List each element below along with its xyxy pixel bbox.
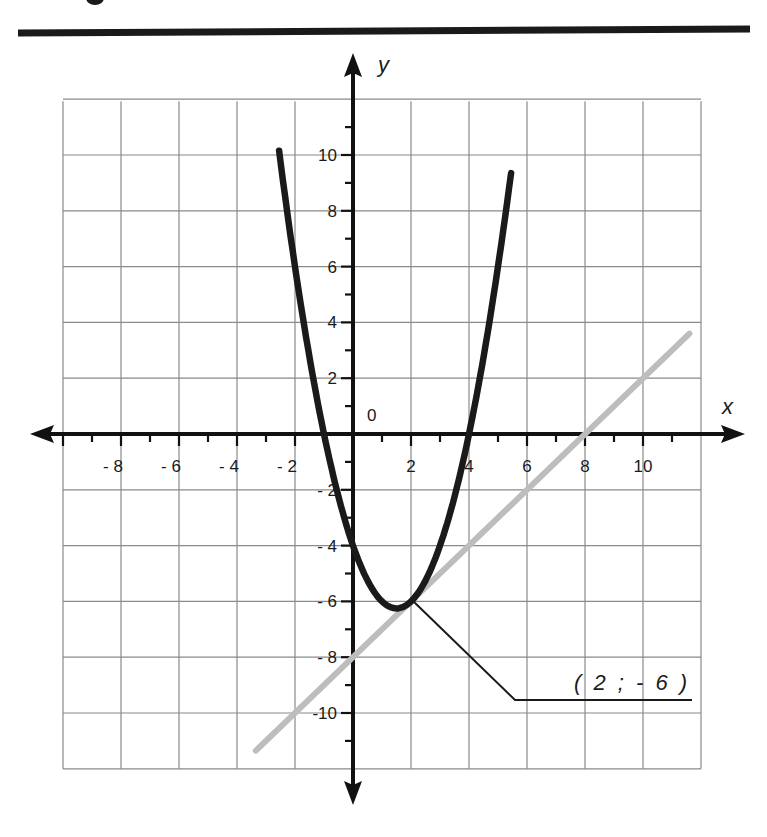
- origin-label: 0: [367, 406, 376, 425]
- x-tick-label: - 4: [219, 457, 239, 476]
- cropped-heading-glyph: [86, 0, 104, 5]
- x-tick-label: 10: [634, 457, 653, 476]
- x-tick-label: - 6: [161, 457, 181, 476]
- x-tick-label: 2: [406, 457, 415, 476]
- x-axis-label: x: [721, 394, 734, 419]
- y-tick-label: 10: [318, 146, 337, 165]
- y-axis-label: y: [376, 52, 391, 77]
- x-tick-label: 8: [580, 457, 589, 476]
- y-tick-label: 2: [328, 369, 337, 388]
- x-tick-label: - 2: [277, 457, 297, 476]
- y-tick-label: - 8: [317, 648, 337, 667]
- x-tick-label: 6: [522, 457, 531, 476]
- y-tick-label: - 6: [317, 592, 337, 611]
- x-tick-label: - 8: [103, 457, 123, 476]
- callout-label: ( 2 ; - 6 ): [574, 670, 690, 695]
- chart-figure: - 8- 6- 4- 2246810108642- 2- 4- 6- 8-10 …: [0, 0, 767, 837]
- y-tick-label: -10: [312, 704, 337, 723]
- y-tick-label: 4: [328, 313, 337, 332]
- y-tick-label: - 4: [317, 537, 337, 556]
- y-tick-label: 8: [328, 202, 337, 221]
- header-rule: [18, 29, 750, 33]
- y-tick-label: 6: [328, 258, 337, 277]
